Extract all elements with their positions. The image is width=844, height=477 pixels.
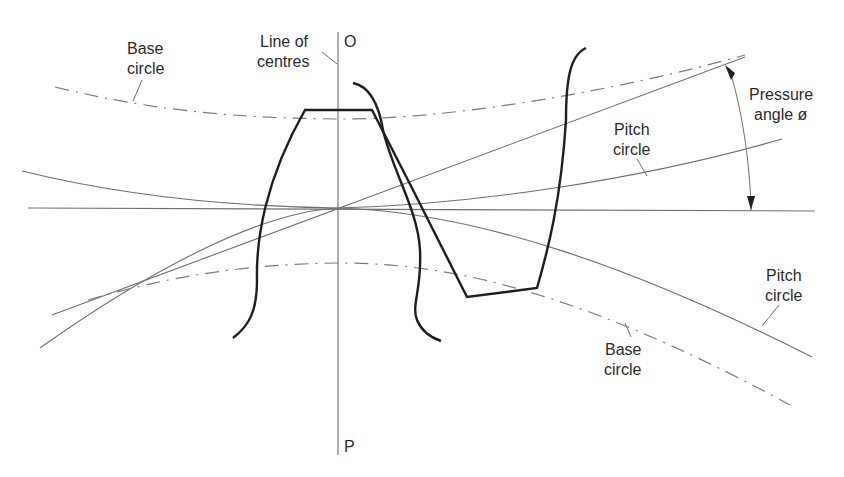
label-base-circle-lower-1: Base — [605, 341, 642, 358]
label-pitch-circle-lower-2: circle — [765, 287, 802, 304]
label-base-circle-upper-1: Base — [127, 40, 164, 57]
base-circle-lower — [88, 263, 790, 405]
line-of-action — [52, 57, 745, 315]
label-point-p: P — [344, 438, 355, 455]
gear-pressure-angle-diagram: Base circle Line of centres O P Pressure… — [0, 0, 844, 477]
gear-tooth-lower — [353, 83, 441, 341]
arrow-down-icon — [747, 196, 755, 210]
leader-pitch-circle-lower — [762, 305, 779, 326]
label-pressure-angle-2: angle ø — [754, 106, 808, 123]
leader-base-circle-lower — [625, 323, 631, 337]
pressure-angle-arc — [729, 68, 751, 210]
label-pitch-circle-lower-1: Pitch — [766, 267, 802, 284]
label-pitch-circle-upper-2: circle — [613, 141, 650, 158]
label-line-of-centres-2: centres — [257, 53, 309, 70]
label-pressure-angle-1: Pressure — [749, 86, 813, 103]
pitch-circle-upper — [40, 139, 782, 348]
label-base-circle-lower-2: circle — [604, 361, 641, 378]
label-point-o: O — [344, 33, 356, 50]
label-line-of-centres-1: Line of — [260, 33, 309, 50]
gear-tooth-upper — [233, 48, 586, 338]
leader-line-of-centres — [322, 52, 337, 64]
label-base-circle-upper-2: circle — [127, 60, 164, 77]
label-pitch-circle-upper-1: Pitch — [614, 121, 650, 138]
arrow-up-icon — [725, 65, 735, 80]
leader-base-circle-upper — [133, 80, 142, 101]
